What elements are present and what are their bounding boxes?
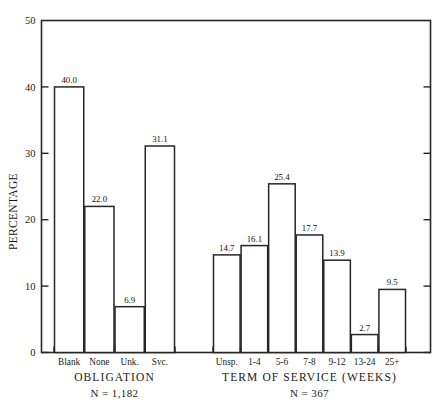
bar-value-label: 14.7 bbox=[219, 243, 235, 253]
y-tick-label: 50 bbox=[25, 15, 36, 26]
y-axis-ticks-right bbox=[424, 87, 431, 353]
x-category-label: Blank bbox=[58, 357, 81, 367]
group-n-obligation: N = 1,182 bbox=[91, 387, 139, 399]
y-tick-label: 0 bbox=[30, 347, 35, 358]
x-category-label: 5-6 bbox=[276, 357, 289, 367]
bar bbox=[115, 307, 144, 353]
y-tick-label: 40 bbox=[25, 82, 36, 93]
group-title-obligation: OBLIGATION bbox=[74, 371, 155, 383]
x-axis-category-labels: BlankNoneUnk.Svc.Unsp.1-45-67-89-1213-24… bbox=[58, 357, 399, 367]
bar-value-label: 6.9 bbox=[124, 295, 136, 305]
bar bbox=[145, 146, 174, 353]
bar-value-label: 13.9 bbox=[329, 248, 345, 258]
x-category-label: 7-8 bbox=[303, 357, 316, 367]
bars-layer bbox=[55, 87, 406, 353]
x-category-label: Unsp. bbox=[216, 357, 238, 367]
bar-value-label: 25.4 bbox=[274, 172, 290, 182]
x-category-label: Svc. bbox=[152, 357, 168, 367]
bar-value-label: 16.1 bbox=[247, 234, 262, 244]
y-tick-label: 20 bbox=[25, 214, 36, 225]
y-axis-title: PERCENTAGE bbox=[7, 173, 19, 250]
bar bbox=[296, 235, 323, 353]
figure-container: 01020304050 PERCENTAGE 40.022.06.931.114… bbox=[0, 0, 439, 406]
bar-chart: 01020304050 PERCENTAGE 40.022.06.931.114… bbox=[0, 0, 439, 406]
y-axis-ticks-left bbox=[42, 87, 49, 353]
x-category-label: None bbox=[89, 357, 109, 367]
x-category-label: 13-24 bbox=[354, 357, 376, 367]
bar bbox=[269, 184, 296, 353]
bar bbox=[241, 246, 268, 353]
bar bbox=[85, 206, 114, 352]
bar-value-label: 40.0 bbox=[61, 75, 77, 85]
x-category-label: 9-12 bbox=[329, 357, 346, 367]
y-tick-label: 10 bbox=[25, 281, 36, 292]
bar bbox=[324, 260, 351, 352]
bar-value-label: 9.5 bbox=[387, 277, 399, 287]
group-title-term-of-service: TERM OF SERVICE (WEEKS) bbox=[222, 371, 397, 384]
bar bbox=[55, 87, 84, 353]
bar bbox=[351, 335, 378, 353]
bar-value-label: 2.7 bbox=[359, 323, 371, 333]
x-category-label: 25+ bbox=[385, 357, 400, 367]
bar-value-label: 22.0 bbox=[92, 194, 108, 204]
y-tick-label: 30 bbox=[25, 148, 36, 159]
x-category-label: Unk. bbox=[120, 357, 138, 367]
group-n-term-of-service: N = 367 bbox=[290, 387, 329, 399]
bar-value-label: 31.1 bbox=[152, 134, 167, 144]
bar bbox=[214, 255, 241, 353]
x-category-label: 1-4 bbox=[248, 357, 261, 367]
y-axis-tick-labels: 01020304050 bbox=[25, 15, 36, 358]
bar bbox=[379, 289, 406, 352]
bar-value-label: 17.7 bbox=[302, 223, 318, 233]
